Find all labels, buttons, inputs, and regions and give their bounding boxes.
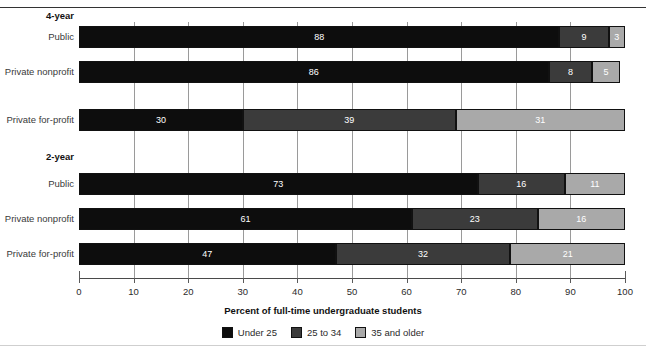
x-axis-tick-label-90: 90 (555, 286, 585, 297)
gridline-tick-70-6 (461, 265, 462, 278)
row-label-4-year-public: Public (0, 31, 74, 42)
gridline-tick-90-1 (570, 48, 571, 61)
group-label-2-year: 2-year (0, 151, 74, 162)
bar-segment-under-25[interactable]: 47 (79, 243, 336, 265)
chart-canvas: 4-year2-yearPublicPrivate nonprofitPriva… (0, 0, 646, 347)
gridline-tick-70-4 (461, 195, 462, 208)
bar-segment-25-to-34[interactable]: 32 (336, 243, 511, 265)
bar-row: 473221 (79, 243, 625, 265)
gridline-tick-40-1 (297, 48, 298, 61)
gridline-tick-20-1 (188, 48, 189, 61)
gridline-tick-50-5 (352, 230, 353, 243)
gridline-tick-30-6 (243, 265, 244, 278)
x-axis-tick-label-60: 60 (392, 286, 422, 297)
gridline-tick-40-5 (297, 230, 298, 243)
group-label-4-year: 4-year (0, 10, 74, 21)
gridline-tick-80-6 (516, 265, 517, 278)
bar-segment-35-and-older[interactable]: 21 (510, 243, 625, 265)
gridline-tick-60-4 (407, 195, 408, 208)
x-axis-tick-10 (134, 278, 135, 283)
top-divider-rule (0, 7, 646, 8)
bar-segment-35-and-older[interactable]: 3 (609, 26, 625, 48)
x-axis-tick-label-70: 70 (446, 286, 476, 297)
gridline-tick-30-2 (243, 83, 244, 109)
bar-row: 8893 (79, 26, 625, 48)
row-label-4-year-private-nonprofit: Private nonprofit (0, 66, 74, 77)
gridline-tick-60-2 (407, 83, 408, 109)
x-axis-tick-40 (297, 278, 298, 283)
bar-segment-25-to-34[interactable]: 23 (412, 208, 538, 230)
gridline-tick-70-5 (461, 230, 462, 243)
x-axis-tick-70 (461, 278, 462, 283)
bar-value-label: 86 (80, 67, 548, 77)
gridline-tick-70-1 (461, 48, 462, 61)
bar-row: 303931 (79, 109, 625, 131)
gridline-tick-60-3 (407, 131, 408, 173)
bar-value-label: 11 (566, 179, 624, 189)
legend-item-35-and-older[interactable]: 35 and older (355, 327, 424, 338)
gridline-tick-60-6 (407, 265, 408, 278)
gridline-tick-90-6 (570, 265, 571, 278)
gridline-tick-30-1 (243, 48, 244, 61)
gridline-tick-50-2 (352, 83, 353, 109)
bar-segment-under-25[interactable]: 86 (79, 61, 549, 83)
legend-swatch-icon (222, 327, 233, 338)
gridline-tick-40-2 (297, 83, 298, 109)
legend-item-25-to-34[interactable]: 25 to 34 (291, 327, 341, 338)
chart-title-cropped (0, 0, 646, 6)
x-axis-tick-label-0: 0 (64, 286, 94, 297)
gridline-tick-70-3 (461, 131, 462, 173)
gridline-tick-80-3 (516, 131, 517, 173)
bar-row: 612316 (79, 208, 625, 230)
gridline-tick-90-4 (570, 195, 571, 208)
x-axis-tick-label-50: 50 (337, 286, 367, 297)
row-label-2-year-private-for-profit: Private for-profit (0, 248, 74, 259)
gridline-tick-80-1 (516, 48, 517, 61)
bar-segment-under-25[interactable]: 73 (79, 173, 478, 195)
row-label-4-year-private-for-profit: Private for-profit (0, 114, 74, 125)
bar-segment-under-25[interactable]: 30 (79, 109, 243, 131)
legend-swatch-icon (291, 327, 302, 338)
gridline-tick-90-3 (570, 131, 571, 173)
bar-row: 8685 (79, 61, 625, 83)
x-axis-tick-label-40: 40 (282, 286, 312, 297)
gridline-tick-40-4 (297, 195, 298, 208)
gridline-tick-10-5 (134, 230, 135, 243)
gridline-tick-60-1 (407, 48, 408, 61)
bar-value-label: 23 (413, 214, 537, 224)
gridline-tick-80-4 (516, 195, 517, 208)
legend-item-under-25[interactable]: Under 25 (222, 327, 277, 338)
x-axis-tick-100 (625, 271, 626, 283)
gridline-tick-50-4 (352, 195, 353, 208)
gridline-tick-10-2 (134, 83, 135, 109)
bar-segment-35-and-older[interactable]: 31 (456, 109, 625, 131)
gridline-tick-10-6 (134, 265, 135, 278)
row-label-2-year-public: Public (0, 178, 74, 189)
gridline-tick-80-2 (516, 83, 517, 109)
bar-value-label: 39 (244, 115, 455, 125)
gridline-tick-50-6 (352, 265, 353, 278)
bar-value-label: 21 (511, 249, 624, 259)
bar-segment-25-to-34[interactable]: 16 (478, 173, 565, 195)
bar-segment-under-25[interactable]: 61 (79, 208, 412, 230)
x-axis-tick-label-10: 10 (119, 286, 149, 297)
bar-segment-25-to-34[interactable]: 8 (549, 61, 593, 83)
gridline-tick-50-3 (352, 131, 353, 173)
bar-value-label: 73 (80, 179, 477, 189)
bar-value-label: 9 (560, 32, 607, 42)
legend-label: 35 and older (371, 327, 424, 338)
bar-segment-35-and-older[interactable]: 5 (592, 61, 619, 83)
gridline-tick-60-5 (407, 230, 408, 243)
bar-segment-25-to-34[interactable]: 39 (243, 109, 456, 131)
bar-segment-35-and-older[interactable]: 11 (565, 173, 625, 195)
gridline-tick-10-3 (134, 131, 135, 173)
bar-segment-35-and-older[interactable]: 16 (538, 208, 625, 230)
legend-label: Under 25 (238, 327, 277, 338)
bar-segment-under-25[interactable]: 88 (79, 26, 559, 48)
bar-row: 731611 (79, 173, 625, 195)
gridline-tick-20-4 (188, 195, 189, 208)
gridline-tick-20-3 (188, 131, 189, 173)
bar-value-label: 5 (593, 67, 618, 77)
bar-segment-25-to-34[interactable]: 9 (559, 26, 608, 48)
gridline-tick-40-3 (297, 131, 298, 173)
